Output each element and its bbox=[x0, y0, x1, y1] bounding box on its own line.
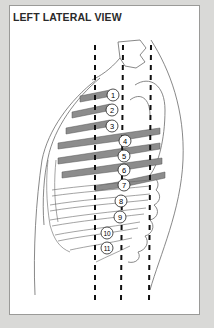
marker-5: 5 bbox=[118, 150, 130, 162]
svg-text:5: 5 bbox=[122, 152, 126, 161]
svg-text:10: 10 bbox=[103, 230, 111, 237]
marker-2: 2 bbox=[106, 104, 118, 116]
ribcage-diagram: 1 2 3 4 5 6 7 8 9 10 11 bbox=[0, 0, 214, 328]
svg-text:11: 11 bbox=[104, 245, 111, 252]
marker-8: 8 bbox=[115, 195, 127, 207]
svg-text:6: 6 bbox=[122, 166, 126, 175]
marker-4: 4 bbox=[119, 135, 131, 147]
svg-text:7: 7 bbox=[122, 181, 126, 190]
svg-text:2: 2 bbox=[110, 106, 114, 115]
marker-6: 6 bbox=[118, 164, 130, 176]
svg-text:8: 8 bbox=[119, 197, 123, 206]
svg-text:9: 9 bbox=[118, 213, 122, 222]
marker-1: 1 bbox=[107, 89, 119, 101]
marker-3: 3 bbox=[106, 120, 118, 132]
marker-10: 10 bbox=[101, 227, 113, 239]
marker-11: 11 bbox=[101, 242, 113, 254]
svg-text:4: 4 bbox=[123, 137, 127, 146]
svg-text:3: 3 bbox=[110, 122, 114, 131]
marker-9: 9 bbox=[114, 211, 126, 223]
marker-7: 7 bbox=[118, 179, 130, 191]
svg-text:1: 1 bbox=[111, 91, 115, 100]
